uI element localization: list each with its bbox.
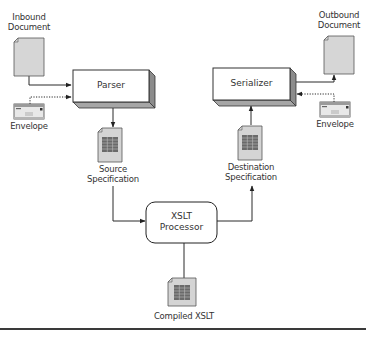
edge-xslt-to-destination — [217, 186, 252, 221]
envelope-label: Envelope — [8, 121, 50, 131]
label-line: Destination — [218, 162, 284, 172]
label-line: Outbound — [314, 10, 364, 20]
destination-specification-icon — [238, 126, 262, 160]
source-specification-label: Source Specification — [82, 164, 144, 184]
serializer-label: Serializer — [213, 78, 290, 88]
xslt-processor-label: XSLT Processor — [146, 211, 217, 233]
parser-label: Parser — [73, 80, 149, 90]
outbound-document-label: Outbound Document — [314, 10, 364, 30]
edge-envelope-to-parser — [30, 97, 71, 104]
label-line: Specification — [82, 174, 144, 184]
edge-serializer-to-outbound — [296, 75, 334, 82]
outbound-document-icon — [324, 36, 354, 74]
destination-specification-label: Destination Specification — [218, 162, 284, 182]
bottom-rule — [0, 328, 366, 330]
label-line: Processor — [146, 222, 217, 233]
label-line: XSLT — [146, 211, 217, 222]
label-line: Inbound — [6, 12, 52, 22]
label-line: Document — [314, 20, 364, 30]
edge-source-to-xslt — [113, 186, 145, 221]
inbound-document-icon — [14, 38, 44, 76]
edge-inbound-to-parser — [29, 76, 71, 85]
compiled-xslt-icon — [168, 278, 196, 306]
source-specification-icon — [98, 128, 122, 162]
label-line: Source — [82, 164, 144, 174]
label-line: Specification — [218, 172, 284, 182]
xslt-pipeline-diagram — [0, 0, 366, 338]
compiled-xslt-label: Compiled XSLT — [150, 311, 218, 321]
envelope-icon — [320, 102, 350, 117]
label-line: Document — [6, 22, 52, 32]
envelope-icon — [14, 104, 44, 119]
inbound-document-label: Inbound Document — [6, 12, 52, 32]
edge-envelope-to-serializer — [297, 94, 334, 102]
envelope-label: Envelope — [314, 119, 356, 129]
